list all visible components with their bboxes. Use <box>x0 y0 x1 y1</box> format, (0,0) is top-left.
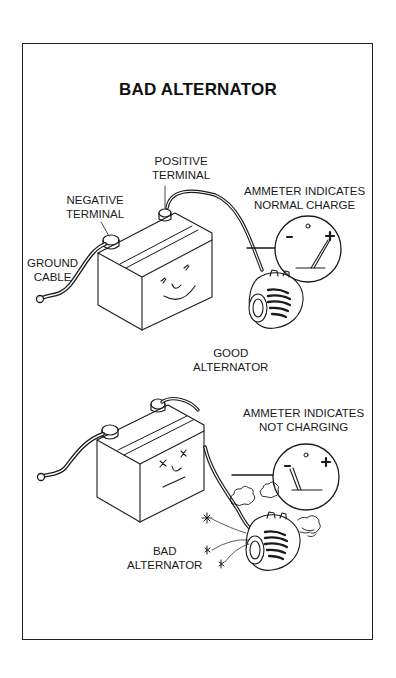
negative-leader-line <box>101 222 109 236</box>
ground-cable-bottom <box>43 434 103 476</box>
bad-battery-illustration <box>97 399 204 522</box>
sparks-icon <box>202 513 249 568</box>
positive-cable-top <box>167 191 262 270</box>
ground-cable-top <box>42 244 105 298</box>
good-battery-illustration <box>98 209 212 330</box>
negative-terminal-post-bottom <box>102 425 118 439</box>
negative-terminal-post <box>103 235 119 249</box>
diagram-artwork <box>0 0 396 678</box>
ammeter-not-charging-gauge <box>273 444 339 510</box>
smiling-face-icon <box>161 265 195 299</box>
dazed-face-icon <box>160 450 186 487</box>
bad-alternator-illustration <box>246 512 300 570</box>
positive-terminal-post <box>159 209 171 221</box>
